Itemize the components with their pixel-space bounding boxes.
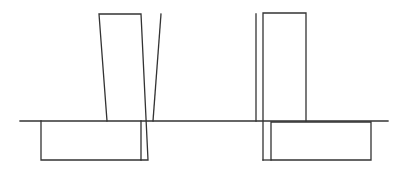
line-drawing xyxy=(0,0,405,170)
right-base-box xyxy=(271,122,371,160)
left-base-box xyxy=(41,121,141,160)
right-assembly xyxy=(256,13,371,160)
right-upright-block xyxy=(263,13,306,160)
left-thin-tilted-line xyxy=(153,14,161,121)
left-assembly xyxy=(41,14,161,160)
diagram-canvas xyxy=(0,0,405,170)
